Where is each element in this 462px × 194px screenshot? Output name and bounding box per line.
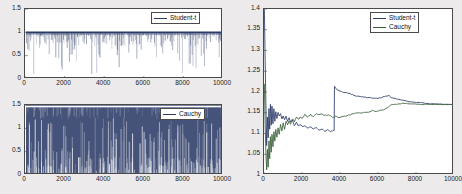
x-tick-label: 10000 (437, 176, 462, 183)
x-tick-label: 2000 (48, 80, 80, 87)
x-tick-label: 8000 (399, 176, 431, 183)
legend-label-student-t: Student-t (170, 15, 196, 22)
legend-label-cauchy: Cauchy (179, 111, 201, 118)
y-tick-label: 1.25 (229, 67, 260, 74)
x-tick-label: 10000 (206, 80, 238, 87)
y-tick-label: 1.5 (0, 101, 21, 108)
y-tick-label: 1 (0, 124, 21, 131)
y-tick-label: 1.5 (0, 5, 21, 12)
x-tick-label: 0 (247, 176, 279, 183)
y-tick-label: 1 (0, 28, 21, 35)
x-tick-label: 0 (8, 80, 40, 87)
ergodic-average-canvas (264, 9, 453, 174)
x-tick-label: 2000 (48, 176, 80, 183)
legend-line-icon-student-t-right (373, 18, 386, 19)
y-tick-label: 1.2 (229, 88, 260, 95)
plot-area-ergodic-average (263, 8, 453, 174)
legend-entry-cauchy-right: Cauchy (373, 23, 415, 31)
x-tick-label: 6000 (127, 80, 159, 87)
y-tick-label: 1.05 (229, 150, 260, 157)
legend-line-icon-cauchy (163, 114, 176, 115)
x-tick-label: 6000 (361, 176, 393, 183)
y-tick-label: 1.35 (229, 25, 260, 32)
x-tick-label: 0 (8, 176, 40, 183)
legend-label-student-t-right: Student-t (389, 15, 415, 22)
legend-entry-cauchy: Cauchy (163, 110, 201, 118)
y-tick-label: 1.15 (229, 108, 260, 115)
y-tick-label: 0.5 (0, 147, 21, 154)
legend-trace-student-t: Student-t (151, 12, 200, 24)
x-tick-label: 4000 (87, 176, 119, 183)
legend-entry-student-t-right: Student-t (373, 14, 415, 22)
legend-line-icon-student-t (154, 18, 167, 19)
x-tick-label: 6000 (127, 176, 159, 183)
x-tick-label: 4000 (323, 176, 355, 183)
legend-label-cauchy-right: Cauchy (389, 24, 411, 31)
x-tick-label: 8000 (166, 80, 198, 87)
legend-trace-cauchy: Cauchy (160, 108, 205, 120)
x-tick-label: 2000 (285, 176, 317, 183)
legend-line-icon-cauchy-right (373, 27, 386, 28)
x-tick-label: 8000 (166, 176, 198, 183)
legend-ergodic-average: Student-t Cauchy (370, 12, 419, 33)
y-tick-label: 1.3 (229, 46, 260, 53)
x-tick-label: 4000 (87, 80, 119, 87)
y-tick-label: 1.4 (229, 5, 260, 12)
y-tick-label: 1.1 (229, 129, 260, 136)
figure-root: Student-t Cauchy Student-t Cauchy (0, 0, 462, 194)
y-tick-label: 0.5 (0, 51, 21, 58)
legend-entry-student-t: Student-t (154, 14, 196, 22)
